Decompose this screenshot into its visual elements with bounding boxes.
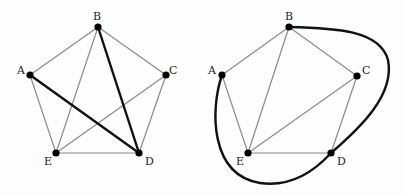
edge-bc [98,27,166,75]
vertex-label-d: D [337,155,346,168]
vertex-label-c: C [362,64,370,77]
vertex-label-a: A [16,64,26,77]
vertex-label-e: E [236,155,244,168]
vertex-a [218,71,225,78]
vertex-label-c: C [169,64,177,77]
edge-bc [289,27,357,76]
vertex-e [52,149,59,156]
vertex-label-b: B [93,10,101,23]
edge-ab [222,27,289,75]
vertex-a [26,71,33,78]
edge-cd [139,75,166,153]
edge-ab [30,27,98,75]
graph-left: ABCDE [16,10,177,168]
edge-bd [98,27,139,153]
diagram-canvas: ABCDEABCDE [0,0,404,195]
edge-ea [30,75,56,153]
edge-ce [248,76,357,153]
edge-be [56,27,98,153]
graph-right: ABCDE [207,10,389,184]
vertex-label-d: D [145,155,154,168]
graph-diagram: ABCDEABCDE [0,0,404,195]
vertex-b [285,23,292,30]
vertex-c [353,72,360,79]
vertex-label-e: E [44,155,52,168]
edge-ea [222,75,248,153]
vertex-b [94,23,101,30]
edge-be [248,27,289,153]
vertex-d [327,149,334,156]
vertex-label-a: A [207,64,217,77]
vertex-d [135,149,142,156]
edge-ce [56,75,166,153]
vertex-label-b: B [285,10,293,23]
vertex-e [244,149,251,156]
edge-ad [30,75,139,153]
